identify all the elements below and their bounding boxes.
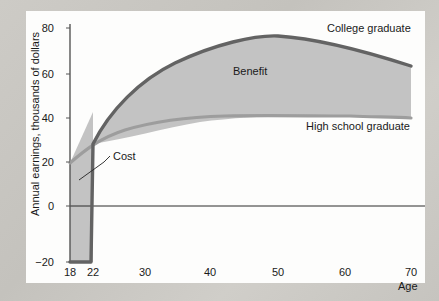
x-tick-label-50: 50 xyxy=(264,266,292,278)
chart-figure: 80 60 40 20 0 −20 18 22 30 40 50 60 70 A… xyxy=(0,0,439,301)
x-tick-label-30: 30 xyxy=(131,266,159,278)
y-axis-title: Annual earnings, thousands of dollars xyxy=(29,36,41,216)
cost-leader-line-2 xyxy=(104,156,110,162)
y-tick-label-minus20: −20 xyxy=(14,256,54,268)
annotation-high-school-graduate: High school graduate xyxy=(306,120,410,132)
x-tick-label-60: 60 xyxy=(331,266,359,278)
annotation-cost: Cost xyxy=(113,150,136,162)
x-tick-label-70: 70 xyxy=(397,266,425,278)
annotation-college-graduate: College graduate xyxy=(327,22,411,34)
x-axis-title: Age xyxy=(398,280,418,292)
chart-plot-area xyxy=(0,0,439,301)
x-tick-label-40: 40 xyxy=(196,266,224,278)
annotation-benefit: Benefit xyxy=(233,65,267,77)
x-tick-label-22: 22 xyxy=(79,266,107,278)
cost-region xyxy=(70,112,93,262)
